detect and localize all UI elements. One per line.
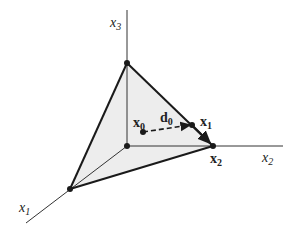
label-x2-axis: x2 (261, 150, 273, 167)
vertex-x1 (67, 186, 73, 192)
label-point-x1: x1 (200, 114, 212, 131)
simplex-diagram: x3 x2 x1 x0 d0 x1 x2 (0, 0, 297, 236)
vertex-x2 (210, 143, 216, 149)
x1-axis (26, 146, 127, 223)
vertex-top (124, 60, 130, 66)
point-x1 (189, 122, 195, 128)
vertex-origin (124, 143, 130, 149)
label-point-x2: x2 (210, 151, 222, 168)
label-x3-axis: x3 (109, 15, 121, 32)
label-x1-axis: x1 (18, 200, 30, 217)
